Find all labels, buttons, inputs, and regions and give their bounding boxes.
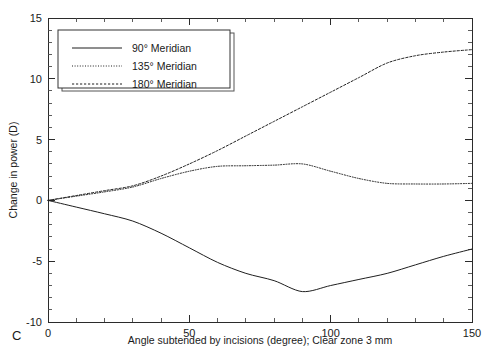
panel-letter: C: [12, 328, 21, 343]
y-tick-label: 0: [36, 194, 42, 206]
y-axis-tick-labels: -10-5051015: [26, 12, 42, 328]
y-tick-label: 5: [36, 134, 42, 146]
x-axis-title: Angle subtended by incisions (degree); C…: [128, 334, 393, 346]
legend-label: 90° Meridian: [132, 42, 191, 54]
chart-legend: 90° Meridian135° Meridian180° Meridian: [58, 30, 234, 91]
x-tick-label: 0: [45, 327, 51, 339]
legend-label: 180° Meridian: [132, 78, 197, 90]
legend-label: 135° Meridian: [132, 60, 197, 72]
y-tick-label: -5: [32, 255, 42, 267]
series-line-135-meridian: [48, 164, 472, 201]
y-tick-label: 15: [30, 12, 42, 24]
x-tick-label: 150: [463, 327, 481, 339]
line-chart: -10-5051015 050100150 Change in power (D…: [0, 0, 488, 354]
series-line-90-meridian: [48, 200, 472, 291]
figure-panel-c: -10-5051015 050100150 Change in power (D…: [0, 0, 488, 354]
y-axis-title: Change in power (D): [7, 122, 19, 219]
y-tick-label: -10: [26, 316, 42, 328]
y-tick-label: 10: [30, 73, 42, 85]
